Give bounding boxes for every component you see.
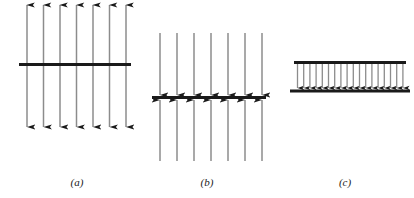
panel-c-caption: (c)	[339, 176, 352, 189]
panel-a-caption: (a)	[71, 176, 84, 189]
figure-root: (a) (b)	[0, 0, 414, 198]
force-diagram-canvas: (a) (b)	[0, 0, 414, 198]
panel-b-caption: (b)	[201, 176, 214, 189]
